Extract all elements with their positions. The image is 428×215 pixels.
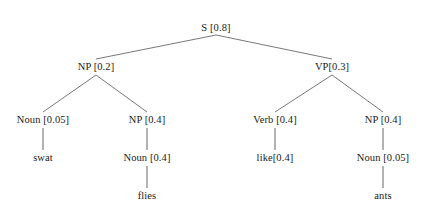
tree-terminal-flies: flies xyxy=(138,191,157,202)
tree-edge xyxy=(275,75,332,112)
tree-node-noun2: Noun [0.4] xyxy=(123,153,170,164)
tree-edge xyxy=(96,75,147,112)
tree-edge xyxy=(216,35,332,59)
tree-node-vp: VP[0.3] xyxy=(315,62,349,73)
tree-edge xyxy=(43,75,96,112)
tree-node-noun3: Noun [0.05] xyxy=(357,153,409,164)
tree-node-np1: NP [0.2] xyxy=(78,62,115,73)
tree-node-verb: Verb [0.4] xyxy=(253,115,297,126)
tree-terminal-swat: swat xyxy=(33,153,53,164)
tree-terminal-ants: ants xyxy=(374,191,391,202)
tree-node-s: S [0.8] xyxy=(201,23,230,34)
tree-terminal-like: like[0.4] xyxy=(257,153,294,164)
tree-node-noun1: Noun [0.05] xyxy=(17,115,69,126)
parse-tree-diagram: S [0.8]NP [0.2]VP[0.3]Noun [0.05]NP [0.4… xyxy=(0,0,428,215)
tree-edge xyxy=(332,75,383,112)
tree-node-np2: NP [0.4] xyxy=(129,115,166,126)
tree-node-np3: NP [0.4] xyxy=(365,115,402,126)
tree-edge xyxy=(96,35,216,59)
